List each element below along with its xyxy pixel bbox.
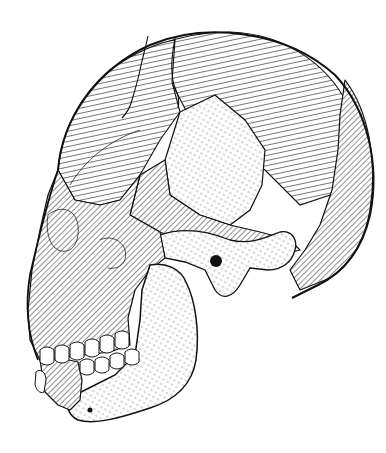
mental-foramen xyxy=(88,408,93,413)
skull-illustration xyxy=(0,0,386,453)
skull-drawing xyxy=(0,0,386,453)
external-auditory-meatus xyxy=(210,255,222,267)
